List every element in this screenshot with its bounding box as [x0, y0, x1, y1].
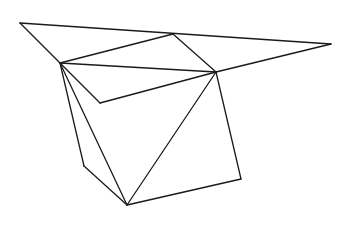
edge-L-V	[60, 63, 100, 103]
edge-LL-B	[84, 166, 127, 205]
edge-LR-B	[127, 179, 241, 205]
edge-L-LL	[60, 63, 84, 166]
edge-L-T	[60, 34, 173, 63]
edge-TL-TR	[20, 23, 331, 44]
edge-R-LR	[216, 72, 241, 179]
edge-T-R	[173, 34, 216, 72]
edge-R-TR	[216, 44, 331, 72]
edge-L-B	[60, 63, 127, 205]
geometric-line-diagram	[0, 0, 359, 235]
edge-L-R	[60, 63, 216, 72]
diagram-canvas	[0, 0, 359, 235]
edge-TL-L	[20, 23, 60, 63]
